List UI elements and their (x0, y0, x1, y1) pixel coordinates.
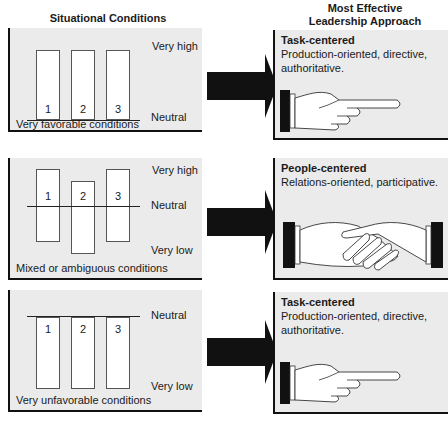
left-column-header: Situational Conditions (38, 12, 178, 25)
handshake-icon (283, 216, 443, 272)
right-column-header: Most Effective Leadership Approach (290, 2, 440, 28)
scale-neutral: Neutral (151, 199, 186, 211)
bar-label-3: 3 (106, 323, 130, 335)
neutral-line (27, 206, 140, 207)
bar-label-1: 1 (36, 103, 60, 115)
approach-description: Production-oriented, directive, authorit… (281, 47, 446, 75)
arrow-right-icon (207, 54, 277, 118)
scale-very-low: Very low (151, 244, 193, 256)
arrow-right-icon (207, 190, 277, 254)
bar-label-1: 1 (36, 323, 60, 335)
condition-panel-unfavorable: 1 2 3 Neutral Very low Very unfavorable … (8, 290, 202, 412)
bar-label-3: 3 (106, 190, 130, 202)
right-header-line1: Most Effective (290, 2, 440, 15)
condition-panel-mixed: 1 2 3 Very high Neutral Very low Mixed o… (8, 158, 202, 280)
pointing-hand-icon (279, 86, 419, 134)
bar-label-2: 2 (71, 323, 95, 335)
bar-label-1: 1 (36, 190, 60, 202)
approach-panel-people-centered: People-centered Relations-oriented, part… (273, 158, 448, 280)
scale-very-high: Very high (152, 164, 198, 176)
pointing-hand-icon (279, 354, 419, 410)
approach-title: Task-centered (281, 34, 355, 46)
approach-description: Relations-oriented, participative. (281, 175, 446, 189)
approach-description: Production-oriented, directive, authorit… (281, 309, 446, 337)
scale-neutral: Neutral (151, 309, 186, 321)
bar-label-2: 2 (71, 190, 95, 202)
bar-label-2: 2 (71, 103, 95, 115)
arrow-right-icon (207, 320, 277, 384)
condition-panel-favorable: 1 2 3 Very high Neutral Very favorable c… (8, 28, 202, 132)
bar-label-3: 3 (106, 103, 130, 115)
condition-label: Very favorable conditions (16, 118, 139, 130)
approach-title: Task-centered (281, 296, 355, 308)
right-header-line2: Leadership Approach (290, 15, 440, 28)
scale-very-low: Very low (151, 380, 193, 392)
approach-title: People-centered (281, 162, 367, 174)
condition-label: Mixed or ambiguous conditions (16, 262, 168, 274)
scale-neutral: Neutral (151, 111, 186, 123)
approach-panel-task-centered-1: Task-centered Production-oriented, direc… (273, 30, 448, 140)
approach-panel-task-centered-2: Task-centered Production-oriented, direc… (273, 292, 448, 414)
scale-very-high: Very high (152, 40, 198, 52)
condition-label: Very unfavorable conditions (16, 394, 151, 406)
